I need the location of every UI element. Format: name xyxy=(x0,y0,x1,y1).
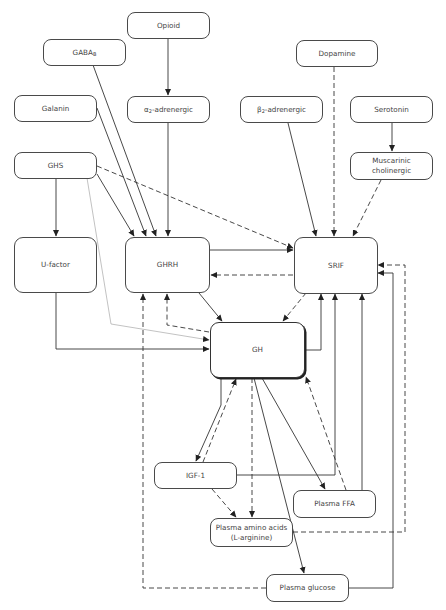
node-galanin-label: Galanin xyxy=(42,104,69,114)
node-amino-line2: (L-arginine) xyxy=(231,533,272,543)
node-u-factor: U-factor xyxy=(14,237,97,293)
edge-ghs-ghrh xyxy=(97,174,134,236)
node-serotonin-label: Serotonin xyxy=(374,105,409,115)
node-serotonin: Serotonin xyxy=(350,96,433,123)
node-gh: GH xyxy=(210,322,305,378)
node-muscarinic-line1: Muscarinic xyxy=(372,156,410,166)
node-igf1: IGF-1 xyxy=(154,462,237,489)
node-plasma-glucose: Plasma glucose xyxy=(266,574,349,602)
edge-beta2-srif xyxy=(288,123,316,236)
node-srif-label: SRIF xyxy=(328,261,344,271)
edge-galanin-ghrh xyxy=(97,108,146,236)
node-plasma-ffa-label: Plasma FFA xyxy=(314,499,355,509)
edge-srif-gh xyxy=(283,293,306,321)
node-ghrh-label: GHRH xyxy=(157,260,178,270)
node-gaba-b-label: GABAB xyxy=(73,48,97,58)
edge-igf1-gh xyxy=(203,379,236,462)
node-plasma-ffa: Plasma FFA xyxy=(293,490,376,518)
node-plasma-glucose-label: Plasma glucose xyxy=(280,583,336,593)
edge-ghs-srif xyxy=(97,166,293,248)
edge-ghrh-gh xyxy=(199,293,222,321)
node-muscarinic-line2: cholinergic xyxy=(372,166,411,176)
node-gaba-b: GABAB xyxy=(43,39,126,66)
node-ghs-label: GHS xyxy=(48,161,64,171)
node-gh-label: GH xyxy=(252,345,263,355)
edge-ffa-gh xyxy=(306,377,346,490)
node-opioid: Opioid xyxy=(127,12,210,39)
node-igf1-label: IGF-1 xyxy=(186,471,205,481)
node-beta2-adrenergic: β2-adrenergic xyxy=(240,96,323,123)
edge-glucose-srif xyxy=(349,273,393,588)
edge-igf1-amino xyxy=(212,489,236,517)
edge-gh-ghrh xyxy=(167,294,209,332)
node-alpha2-adrenergic: α2-adrenergic xyxy=(127,96,210,123)
node-beta2-adrenergic-label: β2-adrenergic xyxy=(257,105,306,115)
node-ghs: GHS xyxy=(14,152,97,179)
node-u-factor-label: U-factor xyxy=(41,260,70,270)
node-muscarinic-cholinergic: Muscarinic cholinergic xyxy=(350,152,433,180)
node-alpha2-adrenergic-label: α2-adrenergic xyxy=(144,105,193,115)
edge-gh-ffa xyxy=(262,378,325,489)
node-srif: SRIF xyxy=(294,237,378,294)
edge-gh-igf1 xyxy=(196,378,221,461)
edge-gh-srif xyxy=(305,294,321,350)
node-opioid-label: Opioid xyxy=(157,21,180,31)
node-dopamine-label: Dopamine xyxy=(319,49,356,59)
node-dopamine: Dopamine xyxy=(296,40,378,67)
node-plasma-amino-acids: Plasma amino acids (L-arginine) xyxy=(210,518,293,547)
node-amino-line1: Plasma amino acids xyxy=(216,523,287,533)
edge-gabab-ghrh xyxy=(93,65,156,236)
node-galanin: Galanin xyxy=(14,95,97,122)
edge-ufactor-gh xyxy=(56,292,209,349)
node-ghrh: GHRH xyxy=(125,237,210,293)
edge-muscarinic-srif xyxy=(353,180,381,236)
